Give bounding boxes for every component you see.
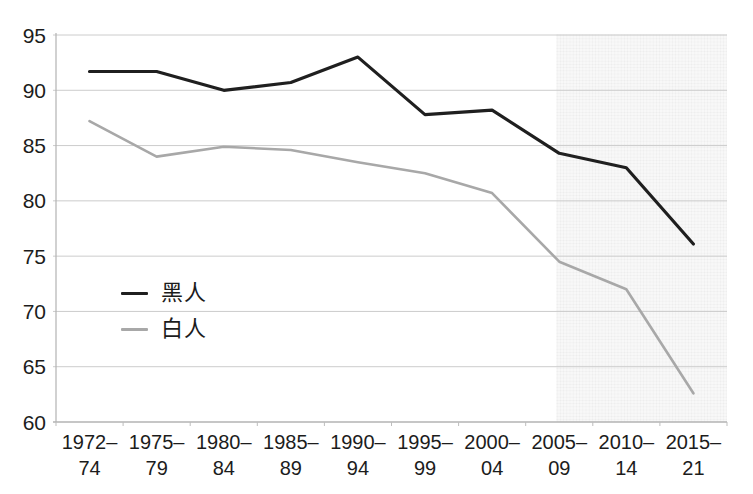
x-tick-label-line1: 1995–: [397, 431, 453, 453]
x-tick-label-line2: 84: [213, 457, 235, 479]
x-tick-label-line1: 1980–: [196, 431, 252, 453]
x-tick-label-line1: 2000–: [464, 431, 520, 453]
white-series-line-swatch: [121, 328, 148, 331]
y-tick-label: 90: [23, 79, 46, 102]
y-tick-label: 70: [23, 300, 46, 323]
line-chart: 60657075808590951972–741975–791980–84198…: [0, 0, 753, 494]
y-tick-label: 80: [23, 189, 46, 212]
y-tick-label: 65: [23, 355, 46, 378]
x-tick-label-line1: 2015–: [666, 431, 722, 453]
x-tick-label-line1: 2005–: [531, 431, 587, 453]
x-tick-label-line2: 21: [682, 457, 704, 479]
x-tick-label-line1: 2010–: [599, 431, 655, 453]
chart-legend: 黑人 白人: [121, 281, 207, 341]
x-tick-label-line1: 1990–: [330, 431, 386, 453]
x-tick-label-line2: 74: [78, 457, 100, 479]
x-tick-label-line2: 14: [615, 457, 637, 479]
x-tick-label-line2: 99: [414, 457, 436, 479]
legend-item-black: 黑人: [121, 281, 207, 305]
x-tick-label-line2: 79: [146, 457, 168, 479]
x-tick-label-line1: 1985–: [263, 431, 319, 453]
legend-item-white: 白人: [121, 317, 207, 341]
legend-label-white: 白人: [161, 317, 207, 341]
x-tick-label-line1: 1972–: [62, 431, 118, 453]
legend-label-black: 黑人: [161, 281, 207, 305]
figure: 60657075808590951972–741975–791980–84198…: [0, 0, 753, 494]
x-tick-label-line2: 04: [481, 457, 503, 479]
x-tick-label-line1: 1975–: [129, 431, 185, 453]
x-tick-label-line2: 89: [280, 457, 302, 479]
x-tick-label-line2: 94: [347, 457, 369, 479]
y-tick-label: 95: [23, 24, 46, 47]
y-tick-label: 75: [23, 245, 46, 268]
shaded-region: [556, 34, 727, 422]
y-tick-label: 85: [23, 134, 46, 157]
black-series-line-swatch: [121, 292, 148, 295]
y-tick-label: 60: [23, 411, 46, 434]
x-tick-label-line2: 09: [548, 457, 570, 479]
